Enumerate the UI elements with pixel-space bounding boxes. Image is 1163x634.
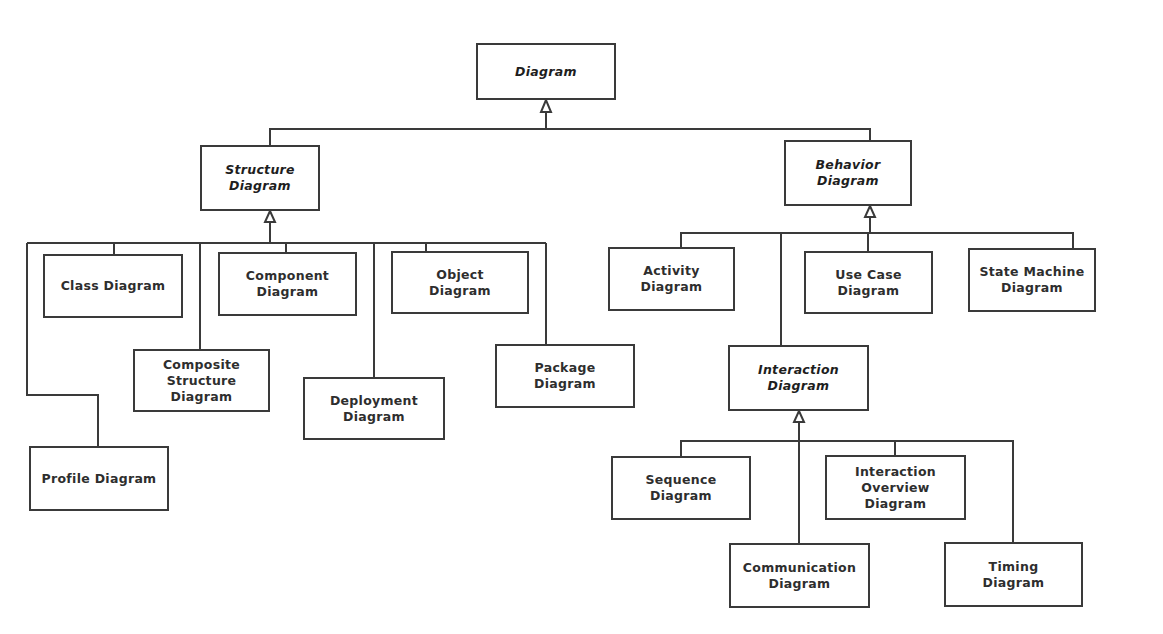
node-interaction-overview-diagram[interactable]: Interaction Overview Diagram [825, 455, 966, 520]
node-label: Deployment Diagram [330, 393, 418, 425]
node-label: Interaction Diagram [758, 362, 839, 394]
uml-diagram-canvas: Diagram Structure Diagram Behavior Diagr… [0, 0, 1163, 634]
node-deployment-diagram[interactable]: Deployment Diagram [303, 377, 445, 440]
node-label: Sequence Diagram [646, 472, 717, 504]
node-interaction-diagram[interactable]: Interaction Diagram [728, 345, 869, 411]
node-profile-diagram[interactable]: Profile Diagram [29, 446, 169, 511]
node-label: Object Diagram [429, 267, 491, 299]
node-activity-diagram[interactable]: Activity Diagram [608, 247, 735, 311]
node-composite-structure-diagram[interactable]: Composite Structure Diagram [133, 349, 270, 412]
generalization-arrow-icon [541, 100, 551, 112]
node-label: Timing Diagram [983, 559, 1045, 591]
node-behavior-diagram[interactable]: Behavior Diagram [784, 140, 912, 206]
node-package-diagram[interactable]: Package Diagram [495, 344, 635, 408]
node-label: Package Diagram [534, 360, 596, 392]
node-label: Composite Structure Diagram [163, 357, 240, 405]
node-sequence-diagram[interactable]: Sequence Diagram [611, 456, 751, 520]
node-label: Class Diagram [61, 278, 166, 294]
node-class-diagram[interactable]: Class Diagram [43, 254, 183, 318]
node-state-machine-diagram[interactable]: State Machine Diagram [968, 248, 1096, 312]
node-label: Communication Diagram [743, 560, 856, 592]
node-label: Structure Diagram [225, 162, 295, 194]
node-label: Activity Diagram [641, 263, 703, 295]
generalization-arrow-icon [865, 206, 875, 217]
node-label: State Machine Diagram [980, 264, 1085, 296]
node-diagram[interactable]: Diagram [476, 43, 616, 100]
node-label: Diagram [515, 64, 577, 80]
generalization-arrow-icon [265, 211, 275, 222]
node-label: Use Case Diagram [835, 267, 901, 299]
node-object-diagram[interactable]: Object Diagram [391, 251, 529, 314]
node-label: Component Diagram [246, 268, 329, 300]
node-label: Behavior Diagram [816, 157, 881, 189]
node-communication-diagram[interactable]: Communication Diagram [729, 543, 870, 608]
node-component-diagram[interactable]: Component Diagram [218, 252, 357, 316]
generalization-arrow-icon [794, 411, 804, 422]
node-structure-diagram[interactable]: Structure Diagram [200, 145, 320, 211]
node-timing-diagram[interactable]: Timing Diagram [944, 542, 1083, 607]
node-label: Profile Diagram [42, 471, 157, 487]
node-label: Interaction Overview Diagram [855, 464, 936, 512]
node-use-case-diagram[interactable]: Use Case Diagram [804, 251, 933, 314]
